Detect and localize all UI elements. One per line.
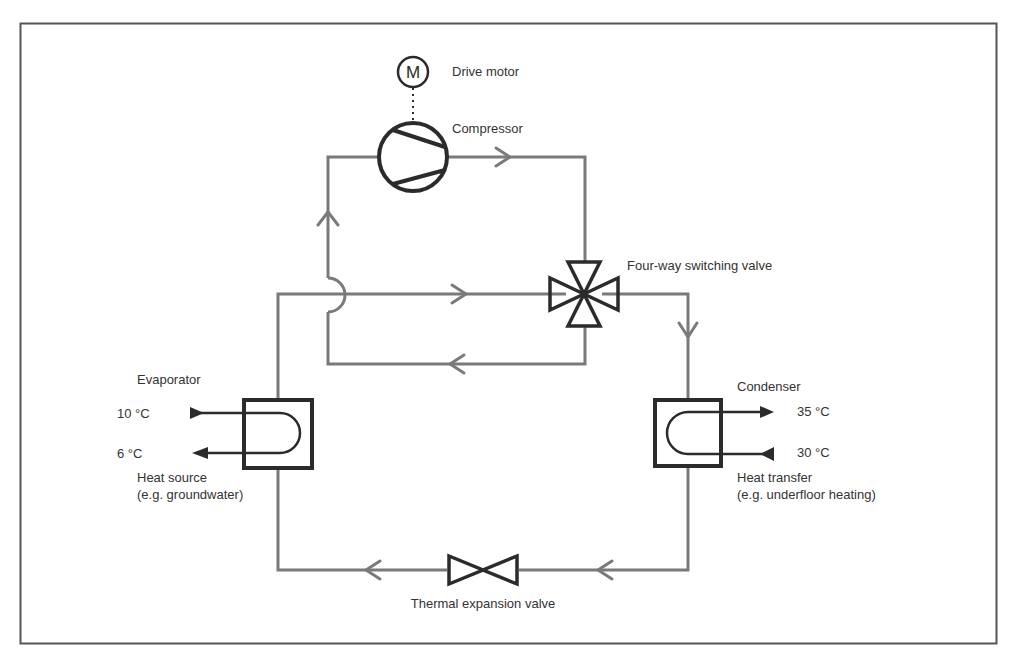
heat-transfer-example: (e.g. underfloor heating) [737, 487, 876, 502]
evaporator-temp-out: 6 °C [117, 446, 142, 461]
evaporator: Evaporator 10 °C 6 °C Heat source (e.g. … [117, 372, 312, 502]
inlet-arrow-icon [760, 447, 774, 461]
heat-pump-diagram: M Drive motor Compressor Four-way switch… [0, 0, 1013, 663]
condenser-icon [655, 400, 721, 466]
evaporator-label: Evaporator [137, 372, 201, 387]
heat-transfer-label: Heat transfer [737, 470, 813, 485]
heat-source-label: Heat source [137, 470, 207, 485]
condenser-label: Condenser [737, 379, 801, 394]
thermal-expansion-valve: Thermal expansion valve [411, 556, 556, 611]
four-way-valve-label: Four-way switching valve [627, 258, 772, 273]
diagram-frame [21, 24, 997, 644]
compressor-label: Compressor [452, 121, 523, 136]
outlet-arrow-icon [760, 406, 774, 418]
expansion-valve-label: Thermal expansion valve [411, 596, 556, 611]
compressor-icon [379, 123, 447, 191]
outlet-arrow-icon [192, 447, 208, 459]
four-way-switching-valve: Four-way switching valve [550, 258, 772, 326]
heat-source-example: (e.g. groundwater) [137, 487, 243, 502]
expansion-valve-icon [449, 556, 483, 584]
motor-symbol: M [406, 63, 420, 82]
condenser-temp-in: 30 °C [797, 445, 830, 460]
refrigerant-pipes [278, 157, 688, 570]
evaporator-temp-in: 10 °C [117, 406, 150, 421]
drive-motor: M Drive motor [398, 57, 520, 120]
evaporator-icon [244, 400, 312, 468]
drive-motor-label: Drive motor [452, 64, 520, 79]
inlet-arrow-icon [190, 407, 204, 419]
condenser-temp-out: 35 °C [797, 404, 830, 419]
